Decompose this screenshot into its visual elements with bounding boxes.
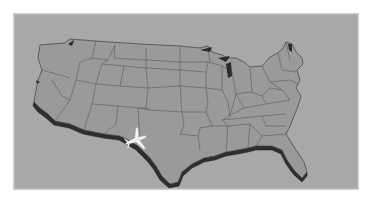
us-map-3d (0, 0, 370, 203)
